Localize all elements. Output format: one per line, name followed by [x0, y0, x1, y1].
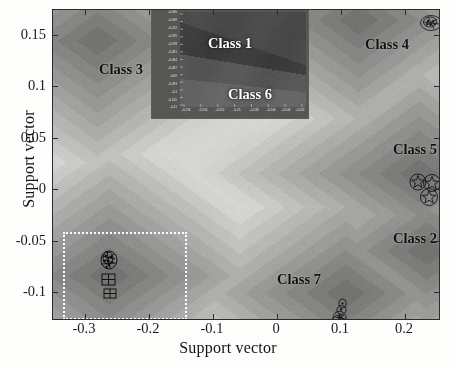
xtick-mark-3	[277, 314, 278, 319]
inset-xtick-3: -0.25	[229, 108, 245, 112]
annotation-class-2: Class 2	[393, 230, 437, 247]
xtick-top-3	[277, 10, 278, 15]
xtick-top-1	[149, 10, 150, 15]
y-axis-title: Support vector	[20, 44, 38, 274]
inset-xtick-0: -0.256	[178, 108, 194, 112]
cluster-class-7[interactable]	[326, 298, 358, 320]
cluster-class-1-6[interactable]	[88, 247, 132, 309]
ytick-mark-1	[53, 241, 58, 242]
inset-ytick-10: -0.1	[153, 90, 177, 94]
cluster-class-4[interactable]	[416, 11, 440, 37]
xtick-label-4: 0.1	[318, 320, 362, 337]
cluster-class-5[interactable]	[405, 170, 440, 214]
annotation-class-6: Class 6	[228, 86, 272, 103]
inset-ytick-8: -0.09	[153, 74, 177, 78]
xtick-mark-0	[85, 314, 86, 319]
inset-ytick-9: -0.093	[153, 82, 177, 86]
ytick-right-4	[434, 86, 439, 87]
inset-xtick-2: -0.252	[212, 108, 228, 112]
xtick-mark-1	[149, 314, 150, 319]
xtick-mark-2	[213, 314, 214, 319]
xtick-top-0	[85, 10, 86, 15]
ytick-right-5	[434, 35, 439, 36]
inset-ytick-0: -0.066	[153, 10, 177, 14]
inset-ytick-2: -0.072	[153, 26, 177, 30]
inset-ytick-11: -0.105	[153, 98, 177, 102]
xtick-label-1: -0.2	[126, 320, 170, 337]
xtick-label-3: 0	[254, 320, 298, 337]
inset-xtick-5: -0.246	[263, 108, 279, 112]
inset-ytick-4: -0.078	[153, 42, 177, 46]
inset-ytick-5: -0.081	[153, 50, 177, 54]
xtick-label-2: -0.1	[190, 320, 234, 337]
ytick-mark-3	[53, 138, 58, 139]
inset-plot[interactable]: -0.066 -0.069 -0.072 -0.075 -0.078 -0.08…	[151, 9, 309, 119]
annotation-class-3: Class 3	[99, 61, 143, 78]
inset-ytick-1: -0.069	[153, 18, 177, 22]
inset-xtick-4: -0.248	[246, 108, 262, 112]
xtick-mark-5	[405, 314, 406, 319]
ytick-mark-0	[53, 292, 58, 293]
inset-ytick-6: -0.084	[153, 58, 177, 62]
xtick-mark-4	[341, 314, 342, 319]
ytick-label-5: 0.15	[0, 26, 46, 43]
inset-ytick-3: -0.075	[153, 34, 177, 38]
annotation-class-5: Class 5	[393, 141, 437, 158]
annotation-class-7: Class 7	[277, 271, 321, 288]
x-axis-title: Support vector	[0, 339, 456, 357]
inset-xtick-7: -0.242	[292, 108, 308, 112]
figure-container: Class 3 Class 4 Class 5 Class 2 Class 7 …	[0, 0, 456, 368]
ytick-right-1	[434, 241, 439, 242]
xtick-top-2	[213, 10, 214, 15]
cluster-class-2[interactable]	[439, 243, 440, 273]
xtick-top-5	[405, 10, 406, 15]
xtick-top-4	[341, 10, 342, 15]
annotation-class-1: Class 1	[208, 35, 252, 52]
ytick-mark-2	[53, 189, 58, 190]
inset-ytick-7: -0.087	[153, 66, 177, 70]
inset-xtick-1: -0.254	[195, 108, 211, 112]
xtick-label-5: 0.2	[382, 320, 426, 337]
annotation-class-4: Class 4	[365, 36, 409, 53]
ytick-right-2	[434, 189, 439, 190]
ytick-mark-5	[53, 35, 58, 36]
ytick-mark-4	[53, 86, 58, 87]
ytick-label-0: -0.1	[0, 283, 46, 300]
inset-ytick-12: -0.11	[153, 105, 177, 109]
plot-area: Class 3 Class 4 Class 5 Class 2 Class 7 …	[52, 9, 440, 320]
ytick-right-3	[434, 138, 439, 139]
ytick-right-0	[434, 292, 439, 293]
xtick-label-0: -0.3	[62, 320, 106, 337]
